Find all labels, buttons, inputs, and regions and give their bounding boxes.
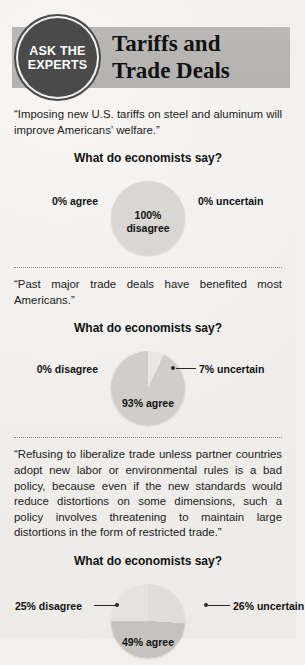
- pie-3-center-label: 49% agree: [93, 636, 203, 649]
- pie-1-center-line-2: disagree: [93, 222, 203, 235]
- badge-line-1: ASK THE: [29, 44, 85, 58]
- pie-2: [111, 351, 185, 425]
- pie-2-center-label: 93% agree: [93, 397, 203, 410]
- pie-2-label-uncertain: 7% uncertain: [199, 363, 264, 375]
- page-title: Tariffs and Trade Deals: [112, 30, 230, 84]
- chart-heading-3: What do economists say?: [14, 554, 282, 568]
- section-2: “Past major trade deals have benefited m…: [0, 277, 296, 437]
- chart-heading-1: What do economists say?: [14, 151, 282, 165]
- question-2: “Past major trade deals have benefited m…: [14, 277, 282, 308]
- header: ASK THE EXPERTS Tariffs and Trade Deals: [0, 0, 296, 98]
- ask-the-experts-badge: ASK THE EXPERTS: [18, 18, 97, 97]
- pie-2-label-disagree: 0% disagree: [37, 363, 98, 375]
- question-3: “Refusing to liberalize trade unless par…: [14, 447, 282, 541]
- pie-2-leader-line: [176, 368, 196, 369]
- pie-3-label-uncertain: 26% uncertain: [233, 600, 304, 612]
- pie-chart-1: 0% agree 0% uncertain 100% disagree: [14, 171, 282, 267]
- pie-1-center-label: 100% disagree: [93, 209, 203, 234]
- pie-3-label-disagree: 25% disagree: [15, 600, 82, 612]
- page-title-line-1: Tariffs and: [112, 30, 230, 57]
- divider-1: [14, 267, 282, 268]
- pie-3-leader-line-left: [94, 605, 116, 606]
- pie-3-leader-line-right: [208, 605, 230, 606]
- question-1: “Imposing new U.S. tariffs on steel and …: [14, 107, 282, 138]
- pie-chart-2: 0% disagree 7% uncertain 93% agree: [14, 341, 282, 437]
- pie-1-label-uncertain: 0% uncertain: [198, 195, 263, 207]
- pie-3-leader-dot-left: [115, 603, 119, 607]
- divider-2: [14, 437, 282, 438]
- pie-1-center-line-1: 100%: [93, 209, 203, 222]
- badge-line-2: EXPERTS: [28, 58, 88, 72]
- section-1: “Imposing new U.S. tariffs on steel and …: [0, 107, 296, 267]
- pie-3-center-line-1: 49% agree: [93, 636, 203, 649]
- chart-heading-2: What do economists say?: [14, 321, 282, 335]
- page-title-line-2: Trade Deals: [112, 57, 230, 84]
- pie-2-center-line-1: 93% agree: [93, 397, 203, 410]
- section-3: “Refusing to liberalize trade unless par…: [0, 447, 296, 665]
- pie-chart-3: 25% disagree 26% uncertain 49% agree: [14, 574, 282, 665]
- pie-1-label-agree: 0% agree: [52, 195, 98, 207]
